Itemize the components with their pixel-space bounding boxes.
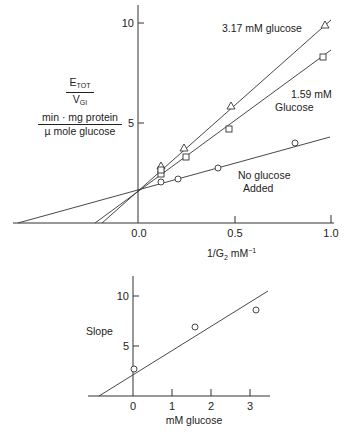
circle-marker bbox=[292, 140, 298, 146]
circle-marker bbox=[158, 179, 164, 185]
denominator-base: V bbox=[73, 93, 80, 105]
bottom-x-axis-label: mM glucose bbox=[166, 414, 223, 426]
denominator-sub: GI bbox=[80, 99, 87, 106]
top-y-axis-label: ETOT VGI min · mg protein µ mole glucose bbox=[30, 76, 130, 138]
top-chart: 10 5 0.0 0.5 1.0 3.17 mM glucose 1.59 mM… bbox=[0, 0, 348, 434]
series-label-1.59mM-line2: Glucose bbox=[275, 101, 314, 113]
square-marker bbox=[183, 154, 189, 160]
circle-marker bbox=[175, 176, 181, 182]
units-denominator: µ mole glucose bbox=[38, 124, 122, 138]
fit-line-1.59mM bbox=[95, 50, 331, 223]
ratio-denominator: VGI bbox=[66, 92, 95, 109]
top-x-axis-label: 1/G2 mM−1 bbox=[207, 247, 256, 261]
circle-marker bbox=[131, 366, 137, 372]
circle-marker bbox=[253, 307, 259, 313]
units-numerator: min · mg protein bbox=[38, 111, 122, 124]
bottom-x-tick-label-0: 0 bbox=[130, 400, 136, 412]
bottom-y-tick-label-5: 5 bbox=[123, 340, 129, 352]
bottom-x-tick-label-2: 2 bbox=[208, 400, 214, 412]
xlabel-base: 1/G bbox=[207, 247, 224, 259]
series-label-no-glucose-line2: Added bbox=[243, 182, 274, 194]
bottom-x-tick-label-3: 3 bbox=[247, 400, 253, 412]
series-label-3.17mM: 3.17 mM glucose bbox=[222, 22, 302, 34]
top-x-tick-label-1.0: 1.0 bbox=[323, 227, 338, 239]
units-fraction: min · mg protein µ mole glucose bbox=[38, 111, 122, 138]
series-label-1.59mM-line1: 1.59 mM bbox=[291, 88, 332, 100]
bottom-y-tick-label-10: 10 bbox=[117, 290, 129, 302]
series-label-no-glucose-line1: No glucose bbox=[238, 169, 291, 181]
numerator-base: E bbox=[70, 76, 77, 88]
bottom-x-tick-label-1: 1 bbox=[169, 400, 175, 412]
triangle-marker bbox=[321, 21, 329, 28]
ratio-numerator: ETOT bbox=[66, 76, 95, 92]
top-x-tick-label-0: 0.0 bbox=[131, 227, 146, 239]
top-x-tick-label-0.5: 0.5 bbox=[227, 227, 242, 239]
bottom-markers bbox=[131, 307, 259, 372]
xlabel-rest: mM bbox=[228, 247, 248, 259]
xlabel-sup: −1 bbox=[248, 247, 256, 254]
triangle-marker bbox=[227, 102, 235, 109]
square-marker bbox=[320, 54, 326, 60]
ratio-fraction: ETOT VGI bbox=[66, 76, 95, 109]
numerator-sub: TOT bbox=[77, 82, 91, 89]
circle-marker bbox=[215, 165, 221, 171]
square-marker bbox=[226, 126, 232, 132]
bottom-chart-axes bbox=[88, 276, 270, 396]
bottom-y-axis-label: Slope bbox=[86, 325, 113, 337]
square-marker bbox=[158, 167, 164, 173]
circle-marker bbox=[192, 324, 198, 330]
top-y-tick-label-10: 10 bbox=[122, 17, 134, 29]
